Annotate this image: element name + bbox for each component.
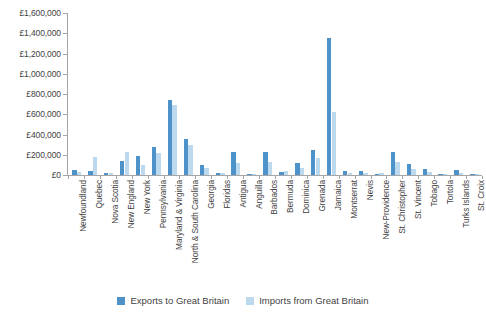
x-axis-tick-label: Nevis (366, 180, 375, 200)
x-axis-tick-label: New York (143, 180, 152, 214)
x-axis-tick-label: Tobago (430, 180, 439, 207)
bar-group (88, 13, 97, 175)
x-axis-tick-mark (307, 176, 308, 179)
y-axis-tick-mark (63, 135, 67, 136)
legend-item[interactable]: Imports from Great Britain (246, 296, 368, 306)
bar-import (268, 162, 272, 175)
bar-group (120, 13, 129, 175)
bar-group (152, 13, 161, 175)
bar-import (348, 173, 352, 175)
x-axis-tick-label: St. Vincent (414, 180, 423, 219)
x-axis-tick-label: New-Providence (382, 180, 391, 239)
x-axis-tick-mark (100, 176, 101, 179)
y-axis-tick-label: £1,400,000 (19, 29, 61, 38)
y-axis-tick-mark (63, 114, 67, 115)
x-axis-tick-mark (243, 176, 244, 179)
bar-import (284, 171, 288, 175)
legend-label: Imports from Great Britain (259, 296, 368, 306)
x-axis-tick-mark (68, 176, 69, 179)
bar-group (407, 13, 416, 175)
bar-import (411, 169, 415, 175)
x-axis-tick-label: Dominica (302, 180, 311, 214)
bar-group (375, 13, 384, 175)
bar-group (343, 13, 352, 175)
bar-import (427, 172, 431, 175)
x-axis-tick-mark (355, 176, 356, 179)
bar-import (475, 174, 479, 175)
bar-group (136, 13, 145, 175)
x-axis-labels: NewfoundlandQuebecNova ScotiaNew England… (68, 180, 482, 265)
x-axis-tick-mark (116, 176, 117, 179)
x-axis-tick-mark (259, 176, 260, 179)
bar-import (363, 173, 367, 175)
legend-item[interactable]: Exports to Great Britain (117, 296, 229, 306)
y-axis-tick-mark (63, 74, 67, 75)
y-axis-tick-label: £1,600,000 (19, 9, 61, 18)
bar-group (200, 13, 209, 175)
bar-import (395, 162, 399, 175)
bar-import (316, 158, 320, 175)
bar-group (454, 13, 463, 175)
x-axis-tick-label: Newfoundland (79, 180, 88, 232)
bar-group (295, 13, 304, 175)
bar-group (231, 13, 240, 175)
y-axis-tick-label: £200,000 (26, 150, 61, 159)
x-axis-tick-mark (371, 176, 372, 179)
x-axis-tick-label: Turks Islands (462, 180, 471, 228)
x-axis-tick-label: Quebec (95, 180, 104, 208)
bar-import (300, 168, 304, 175)
legend-label: Exports to Great Britain (130, 296, 229, 306)
bar-group (327, 13, 336, 175)
y-axis-tick-mark (63, 175, 67, 176)
bar-import (188, 145, 192, 175)
bar-group (470, 13, 479, 175)
bar-group (359, 13, 368, 175)
bar-group (72, 13, 81, 175)
bar-import (125, 152, 129, 175)
bar-group (247, 13, 256, 175)
bar-group (438, 13, 447, 175)
x-axis-tick-mark (164, 176, 165, 179)
bar-group (216, 13, 225, 175)
x-axis-tick-mark (132, 176, 133, 179)
legend-swatch-icon (246, 297, 254, 305)
bar-group (168, 13, 177, 175)
y-axis-tick-mark (63, 13, 67, 14)
bar-import (156, 153, 160, 175)
legend-swatch-icon (117, 297, 125, 305)
y-axis-tick-label: £0 (52, 171, 61, 180)
x-axis-tick-mark (275, 176, 276, 179)
x-axis-tick-mark (195, 176, 196, 179)
x-axis-tick-mark (482, 176, 483, 179)
y-axis-tick-label: £1,200,000 (19, 49, 61, 58)
y-axis-tick-label: £400,000 (26, 130, 61, 139)
bar-import (141, 165, 145, 175)
bar-group (311, 13, 320, 175)
x-axis-tick-mark (450, 176, 451, 179)
x-axis-tick-mark (148, 176, 149, 179)
x-axis-tick-mark (402, 176, 403, 179)
x-axis-tick-mark (339, 176, 340, 179)
x-axis-tick-mark (386, 176, 387, 179)
bar-group (184, 13, 193, 175)
bar-group (423, 13, 432, 175)
x-axis-tick-mark (211, 176, 212, 179)
x-axis-tick-mark (434, 176, 435, 179)
x-axis-tick-label: Tortola (446, 180, 455, 204)
x-axis-tick-label: New England (127, 180, 136, 228)
bar-import (172, 105, 176, 175)
x-axis-tick-mark (418, 176, 419, 179)
y-axis-tick-label: £600,000 (26, 110, 61, 119)
bar-import (109, 173, 113, 175)
y-axis-tick-label: £1,000,000 (19, 69, 61, 78)
bar-group (391, 13, 400, 175)
plot-area (68, 13, 482, 175)
y-axis-tick-mark (63, 155, 67, 156)
x-axis-tick-mark (179, 176, 180, 179)
x-axis-tick-mark (466, 176, 467, 179)
x-axis-tick-mark (291, 176, 292, 179)
bar-group (279, 13, 288, 175)
x-axis-tick-mark (323, 176, 324, 179)
x-axis-tick-mark (84, 176, 85, 179)
bar-import (443, 174, 447, 175)
